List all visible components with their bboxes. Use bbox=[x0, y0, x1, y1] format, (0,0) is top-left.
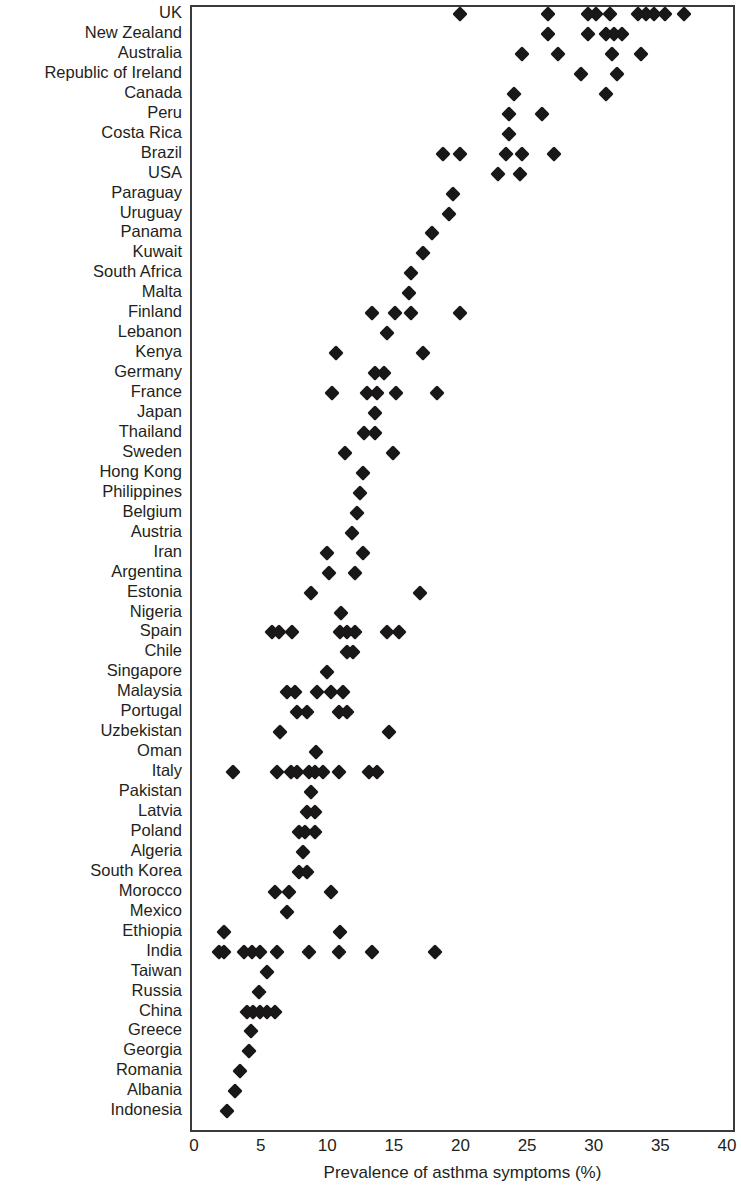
x-tick-label: 10 bbox=[318, 1136, 337, 1156]
data-point bbox=[232, 1064, 248, 1080]
y-axis-label: Georgia bbox=[123, 1039, 182, 1059]
data-point bbox=[270, 944, 286, 960]
data-point bbox=[323, 884, 339, 900]
data-point bbox=[547, 146, 563, 162]
data-point bbox=[331, 944, 347, 960]
y-axis-label: Pakistan bbox=[119, 780, 182, 800]
data-point bbox=[388, 385, 404, 401]
y-axis-title: Country bbox=[2, 0, 24, 22]
data-point bbox=[376, 365, 392, 381]
y-axis-label: UK bbox=[159, 2, 182, 22]
data-point bbox=[367, 405, 383, 421]
y-axis-label: Uruguay bbox=[120, 202, 182, 222]
y-axis-label: Morocco bbox=[119, 880, 182, 900]
data-point bbox=[501, 126, 517, 142]
data-point bbox=[401, 286, 417, 302]
data-point bbox=[491, 166, 507, 182]
y-axis-label: Panama bbox=[121, 221, 182, 241]
y-axis-label: Albania bbox=[127, 1079, 182, 1099]
data-point bbox=[427, 944, 443, 960]
y-axis-label: Malaysia bbox=[117, 680, 182, 700]
data-point bbox=[272, 724, 288, 740]
scatter-chart: Country UKNew ZealandAustraliaRepublic o… bbox=[0, 0, 741, 1196]
data-point bbox=[535, 106, 551, 122]
y-axis-label: Singapore bbox=[107, 660, 182, 680]
data-point bbox=[633, 46, 649, 62]
y-axis-label: Oman bbox=[137, 740, 182, 760]
x-axis-title: Prevalence of asthma symptoms (%) bbox=[190, 1163, 735, 1183]
data-point bbox=[281, 884, 297, 900]
data-point bbox=[344, 525, 360, 541]
data-point bbox=[332, 924, 348, 940]
x-tick-label: 35 bbox=[651, 1136, 670, 1156]
data-point bbox=[379, 325, 395, 341]
data-point bbox=[333, 605, 349, 621]
x-tick-label: 5 bbox=[256, 1136, 265, 1156]
data-point bbox=[364, 305, 380, 321]
y-axis-label: Iran bbox=[154, 541, 182, 561]
data-point bbox=[676, 6, 692, 22]
data-point bbox=[445, 186, 461, 202]
data-point bbox=[657, 6, 673, 22]
data-point bbox=[226, 764, 242, 780]
data-point bbox=[540, 26, 556, 42]
y-axis-label: Austria bbox=[131, 521, 182, 541]
data-point bbox=[216, 924, 232, 940]
data-point bbox=[429, 385, 445, 401]
data-point bbox=[515, 46, 531, 62]
y-axis-label: Lebanon bbox=[118, 321, 182, 341]
data-point bbox=[347, 565, 363, 581]
data-point bbox=[328, 345, 344, 361]
data-point bbox=[369, 385, 385, 401]
data-point bbox=[319, 545, 335, 561]
data-point bbox=[242, 1044, 258, 1060]
y-axis-title-container: Country bbox=[0, 0, 26, 1136]
data-point bbox=[355, 465, 371, 481]
data-point bbox=[259, 964, 275, 980]
y-axis-label: Canada bbox=[124, 82, 182, 102]
y-axis-label: Kuwait bbox=[132, 241, 182, 261]
data-point bbox=[412, 585, 428, 601]
data-point bbox=[307, 824, 323, 840]
data-point bbox=[227, 1084, 243, 1100]
data-point bbox=[387, 305, 403, 321]
y-axis-label: South Korea bbox=[90, 860, 182, 880]
y-axis-label: Uzbekistan bbox=[100, 720, 182, 740]
data-point bbox=[243, 1024, 259, 1040]
data-point bbox=[512, 166, 528, 182]
data-point bbox=[331, 764, 347, 780]
y-axis-label: Indonesia bbox=[110, 1099, 182, 1119]
y-axis-category-labels: UKNew ZealandAustraliaRepublic of Irelan… bbox=[26, 0, 188, 1132]
y-axis-label: Portugal bbox=[121, 700, 182, 720]
y-axis-label: Peru bbox=[147, 102, 182, 122]
x-tick-label: 40 bbox=[718, 1136, 737, 1156]
plot-area bbox=[190, 5, 735, 1132]
y-axis-label: Ethiopia bbox=[122, 920, 182, 940]
data-point bbox=[501, 106, 517, 122]
data-point bbox=[367, 425, 383, 441]
y-axis-label: Sweden bbox=[122, 441, 182, 461]
data-point bbox=[308, 744, 324, 760]
data-point bbox=[604, 46, 620, 62]
y-axis-label: Algeria bbox=[131, 840, 182, 860]
data-point bbox=[321, 565, 337, 581]
data-point bbox=[391, 625, 407, 641]
y-axis-label: Thailand bbox=[119, 421, 182, 441]
y-axis-label: Spain bbox=[140, 620, 182, 640]
y-axis-label: Nigeria bbox=[130, 601, 182, 621]
data-point bbox=[507, 86, 523, 102]
data-point bbox=[385, 445, 401, 461]
data-point bbox=[403, 266, 419, 282]
data-point bbox=[355, 545, 371, 561]
data-point bbox=[415, 246, 431, 262]
y-axis-label: Philippines bbox=[102, 481, 182, 501]
y-axis-label: France bbox=[131, 381, 182, 401]
y-axis-label: Latvia bbox=[138, 800, 182, 820]
data-point bbox=[551, 46, 567, 62]
y-axis-label: China bbox=[139, 1000, 182, 1020]
y-axis-label: Argentina bbox=[111, 561, 182, 581]
data-point bbox=[303, 784, 319, 800]
x-tick-label: 20 bbox=[451, 1136, 470, 1156]
data-point bbox=[303, 585, 319, 601]
data-point bbox=[441, 206, 457, 222]
